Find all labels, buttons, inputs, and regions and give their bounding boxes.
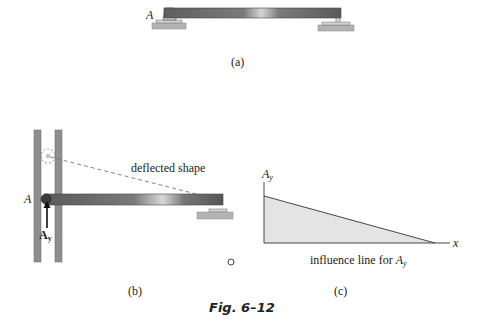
panel-a-beam-diagram: [152, 8, 354, 31]
reaction-label: Ay: [39, 228, 52, 243]
panel-a-label: (a): [231, 55, 244, 70]
y-axis-label: Ay: [262, 167, 273, 182]
roller-support-b: [209, 209, 227, 212]
ground-b: [197, 212, 233, 219]
panel-b-label: (b): [128, 284, 142, 299]
panel-b-support-label: A: [24, 192, 31, 207]
panel-b-diagram: [34, 130, 234, 265]
x-axis-label: x: [453, 236, 458, 251]
deflected-shape-label: deflected shape: [131, 161, 205, 176]
left-ground-block: [152, 23, 186, 29]
figure-caption: Fig. 6–12: [209, 300, 275, 315]
beam-a: [164, 8, 341, 18]
influence-line-caption: influence line for Ay: [310, 253, 407, 268]
panel-a-support-label: A: [146, 8, 153, 23]
right-ground-block: [318, 25, 354, 31]
small-circle-marker: [228, 259, 234, 265]
figure-canvas: [0, 0, 483, 328]
panel-c-influence-line: [264, 182, 450, 243]
beam-b: [45, 194, 223, 205]
deflected-pin-outline: [41, 149, 55, 163]
panel-c-label: (c): [334, 284, 347, 299]
collar-pin: [41, 194, 51, 204]
